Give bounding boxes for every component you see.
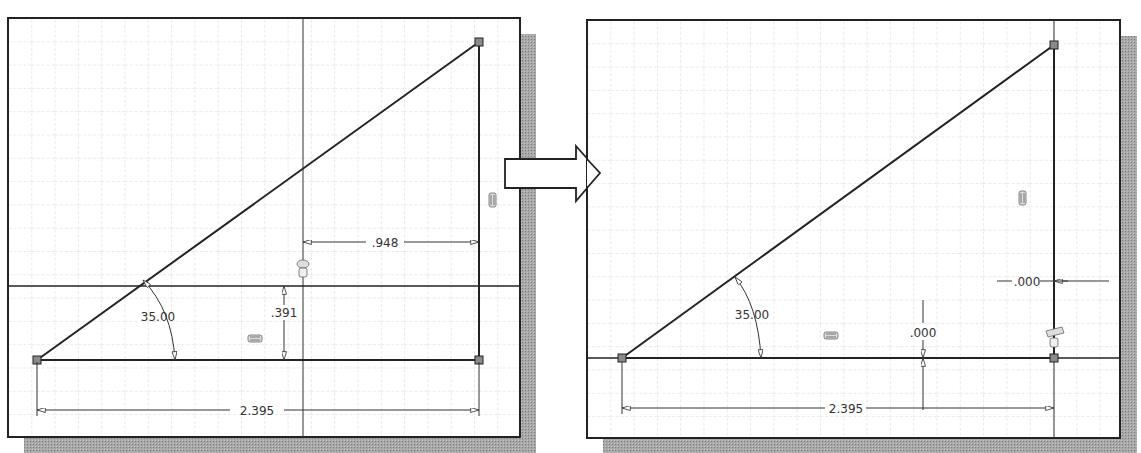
- dimension-value[interactable]: .948: [372, 236, 399, 250]
- sketch-comparison: 2.395 .948 .391 35.00: [0, 0, 1141, 453]
- dimension-value[interactable]: .000: [910, 326, 937, 340]
- dimension-value[interactable]: 2.395: [240, 404, 274, 418]
- vertex-point[interactable]: [618, 354, 626, 362]
- vertex-point[interactable]: [1050, 354, 1058, 362]
- vertex-point[interactable]: [1050, 41, 1058, 49]
- dimension-value[interactable]: 2.395: [829, 402, 863, 416]
- grid: [8, 18, 520, 437]
- grid: [587, 20, 1120, 438]
- left-sketch-panel: 2.395 .948 .391 35.00: [8, 18, 536, 453]
- vertex-point[interactable]: [475, 38, 483, 46]
- right-sketch-panel: 2.395 .000 .000 35.00: [587, 20, 1137, 453]
- dimension-value[interactable]: .391: [271, 306, 298, 320]
- horizontal-constraint-icon[interactable]: [248, 335, 262, 342]
- dimension-value[interactable]: 35.00: [141, 310, 175, 324]
- dimension-value[interactable]: 35.00: [735, 308, 769, 322]
- horizontal-constraint-icon[interactable]: [824, 332, 838, 339]
- vertical-constraint-icon[interactable]: [1019, 191, 1026, 205]
- vertical-constraint-icon[interactable]: [489, 193, 496, 207]
- dimension-value[interactable]: .000: [1014, 275, 1041, 289]
